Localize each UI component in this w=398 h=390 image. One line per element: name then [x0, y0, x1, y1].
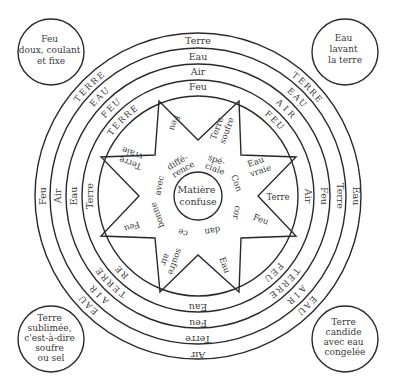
svg-text:Feu: Feu — [167, 114, 182, 133]
svg-text:Terre: Terre — [185, 334, 211, 345]
svg-text:Eau: Eau — [217, 255, 232, 275]
svg-text:diffé- rence: diffé- rence — [165, 151, 196, 180]
svg-text:Terre: Terre — [84, 183, 95, 209]
svg-text:dan: dan — [203, 225, 221, 238]
svg-text:Feu: Feu — [122, 219, 141, 234]
ring-letter: R — [285, 295, 297, 307]
svg-text:Air: Air — [303, 188, 314, 204]
svg-text:soufre air: soufre air — [156, 244, 185, 279]
svg-text:Terre: Terre — [185, 35, 211, 46]
svg-text:Eau: Eau — [68, 187, 79, 206]
svg-text:Terre: Terre — [335, 183, 346, 209]
svg-text:spé- ciale: spé- ciale — [204, 152, 230, 177]
ring-letter: R — [87, 283, 99, 295]
corner-bottom-right: Terre candide avec eau congelée — [312, 306, 378, 372]
svg-text:Con: Con — [229, 173, 244, 193]
ring-letter: R — [285, 109, 297, 121]
svg-text:Feu: Feu — [189, 81, 207, 92]
svg-text:Air: Air — [190, 350, 206, 361]
ring-labels-bottom: Air Terre Feu Eau — [185, 302, 211, 361]
svg-text:Eau: Eau — [189, 51, 208, 62]
svg-text:Eau: Eau — [189, 302, 208, 313]
svg-text:Terre soufre: Terre soufre — [208, 112, 236, 144]
svg-text:Feu: Feu — [37, 187, 48, 205]
center-text: Matière confuse — [177, 184, 218, 207]
alchemical-diagram: Matière confuse Terre Eau Air Feu Air Te… — [0, 0, 398, 390]
svg-text:Feu: Feu — [252, 212, 271, 227]
corner-top-right: Eau lavant la terre — [312, 19, 378, 85]
svg-text:Terre vraie: Terre vraie — [115, 144, 146, 172]
svg-text:Terre: Terre — [266, 192, 289, 202]
svg-text:avec: avec — [152, 175, 165, 196]
ring-labels-right: Eau Terre Feu Air — [303, 183, 362, 209]
svg-text:Eau: Eau — [351, 187, 362, 206]
corner-bottom-left: Terre sublimée, c'est-à-dire soufre ou s… — [18, 306, 84, 372]
svg-text:ce: ce — [177, 226, 190, 239]
svg-text:Air: Air — [52, 188, 63, 204]
corner-top-left: Feu doux, coulant et fixe — [18, 19, 84, 85]
svg-text:Air: Air — [190, 66, 206, 77]
svg-text:Eau vraie: Eau vraie — [244, 153, 272, 180]
svg-text:Feu: Feu — [319, 187, 330, 205]
svg-text:cor: cor — [231, 205, 243, 221]
svg-text:Feu: Feu — [189, 318, 207, 329]
svg-text:bonne: bonne — [148, 201, 166, 229]
